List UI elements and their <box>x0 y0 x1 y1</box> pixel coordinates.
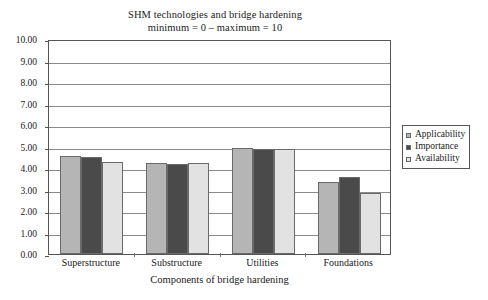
x-axis-category-label: Superstructure <box>62 257 120 268</box>
bar[interactable] <box>318 182 339 254</box>
bar[interactable] <box>81 157 102 254</box>
legend-item-label: Applicability <box>415 130 465 140</box>
y-axis-tick-labels: 0.001.002.003.004.005.006.007.008.009.00… <box>0 40 44 255</box>
chart-title-block: SHM technologies and bridge hardening mi… <box>0 8 430 34</box>
x-axis-category-label: Foundations <box>323 257 372 268</box>
x-axis-group-separator <box>305 253 306 257</box>
y-axis-tick-label: 4.00 <box>20 164 37 174</box>
bar-group <box>221 41 307 254</box>
bar[interactable] <box>274 149 295 254</box>
legend-item-label: Availability <box>415 154 460 164</box>
y-axis-tick-label: 6.00 <box>20 121 37 131</box>
bar[interactable] <box>232 148 253 254</box>
y-axis-tick-label: 9.00 <box>20 57 37 67</box>
x-axis-title: Components of bridge hardening <box>48 274 391 285</box>
legend-item-label: Importance <box>415 142 458 152</box>
bar[interactable] <box>60 156 81 254</box>
bar-group <box>49 41 135 254</box>
y-axis-tick-label: 2.00 <box>20 207 37 217</box>
y-axis-tick-label: 10.00 <box>16 35 37 45</box>
bar[interactable] <box>102 162 123 254</box>
y-axis-tick-label: 1.00 <box>20 229 37 239</box>
chart-title-line-1: SHM technologies and bridge hardening <box>0 8 430 21</box>
x-axis-category-label: Utilities <box>246 257 278 268</box>
legend-swatch-icon <box>406 145 411 150</box>
y-axis-tick-label: 7.00 <box>20 100 37 110</box>
chart-title-line-2: minimum = 0 – maximum = 10 <box>0 21 430 34</box>
y-axis-tick-label: 3.00 <box>20 186 37 196</box>
y-axis-tick-label: 5.00 <box>20 143 37 153</box>
bar[interactable] <box>146 163 167 254</box>
legend-swatch-icon <box>406 133 411 138</box>
x-axis-group-separator <box>134 253 135 257</box>
bar-group <box>306 41 392 254</box>
legend-item[interactable]: Applicability <box>406 129 465 141</box>
bar[interactable] <box>339 177 360 254</box>
x-axis-group-separator <box>220 253 221 257</box>
plot-area <box>48 40 391 255</box>
legend-item[interactable]: Availability <box>406 153 465 165</box>
bar[interactable] <box>253 149 274 254</box>
bar[interactable] <box>167 164 188 254</box>
bar-group <box>135 41 221 254</box>
y-axis-tick-label: 8.00 <box>20 78 37 88</box>
chart-legend: ApplicabilityImportanceAvailability <box>402 125 470 169</box>
x-axis-category-label: Substructure <box>151 257 202 268</box>
x-axis-category-labels: SuperstructureSubstructureUtilitiesFound… <box>48 257 391 273</box>
bar[interactable] <box>360 193 381 254</box>
bar[interactable] <box>188 163 209 254</box>
legend-swatch-icon <box>406 157 411 162</box>
y-axis-tick-label: 0.00 <box>20 250 37 260</box>
bars-layer <box>49 41 390 254</box>
legend-item[interactable]: Importance <box>406 141 465 153</box>
